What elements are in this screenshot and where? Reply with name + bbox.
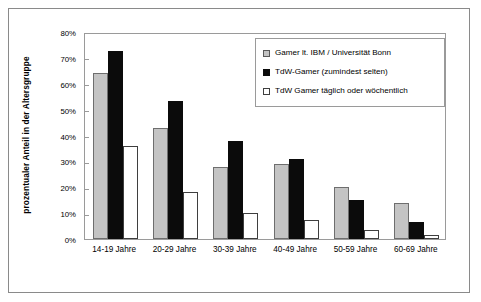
x-axis-tick-labels: 14-19 Jahre20-29 Jahre30-39 Jahre40-49 J… bbox=[84, 245, 446, 265]
y-axis-tick-label: 60% bbox=[60, 80, 76, 89]
bar-group-bars bbox=[145, 34, 205, 239]
y-axis-tick-label: 70% bbox=[60, 54, 76, 63]
y-axis-tick-label: 80% bbox=[60, 29, 76, 38]
bar[interactable] bbox=[93, 73, 108, 239]
bar[interactable] bbox=[274, 164, 289, 239]
bar[interactable] bbox=[243, 213, 258, 239]
x-axis-tick-label: 60-69 Jahre bbox=[394, 245, 438, 254]
legend-swatch-icon bbox=[263, 50, 270, 57]
x-axis-tick-label: 40-49 Jahre bbox=[273, 245, 317, 254]
y-axis-tick-label: 40% bbox=[60, 132, 76, 141]
bar[interactable] bbox=[304, 220, 319, 239]
bar[interactable] bbox=[424, 235, 439, 239]
bar[interactable] bbox=[168, 101, 183, 239]
y-axis-tick-label: 50% bbox=[60, 106, 76, 115]
y-axis-title: prozentualer Anteil in der Altersgruppe bbox=[21, 35, 31, 235]
y-axis-tick-label: 30% bbox=[60, 158, 76, 167]
bar[interactable] bbox=[394, 203, 409, 239]
x-axis-tick-label: 50-59 Jahre bbox=[334, 245, 378, 254]
bar[interactable] bbox=[183, 192, 198, 239]
bar[interactable] bbox=[123, 146, 138, 239]
legend-item-label: TdW-Gamer (zumindest selten) bbox=[275, 68, 388, 76]
x-axis-tick-label: 20-29 Jahre bbox=[153, 245, 197, 254]
bar[interactable] bbox=[334, 187, 349, 239]
bar-group-bars bbox=[85, 34, 145, 239]
legend-item-label: TdW Gamer täglich oder wöchentlich bbox=[275, 87, 408, 95]
legend-item[interactable]: TdW-Gamer (zumindest selten) bbox=[263, 64, 437, 80]
bar[interactable] bbox=[108, 51, 123, 239]
bar[interactable] bbox=[364, 230, 379, 239]
legend-swatch-icon bbox=[263, 88, 270, 95]
bar[interactable] bbox=[153, 128, 168, 239]
chart-figure: prozentualer Anteil in der Altersgruppe … bbox=[0, 0, 481, 302]
chart-legend: Gamer lt. IBM / Universität Bonn TdW-Gam… bbox=[255, 38, 445, 107]
y-axis-tick-label: 10% bbox=[60, 210, 76, 219]
y-axis-tick-label: 20% bbox=[60, 184, 76, 193]
bar[interactable] bbox=[289, 159, 304, 239]
bar[interactable] bbox=[213, 167, 228, 239]
y-axis-tick-labels: 0%10%20%30%40%50%60%70%80% bbox=[52, 33, 80, 240]
x-axis-tick-label: 30-39 Jahre bbox=[213, 245, 257, 254]
legend-item[interactable]: Gamer lt. IBM / Universität Bonn bbox=[263, 45, 437, 61]
legend-item[interactable]: TdW Gamer täglich oder wöchentlich bbox=[263, 83, 437, 99]
bar-group bbox=[85, 34, 145, 239]
x-axis-tick-label: 14-19 Jahre bbox=[92, 245, 136, 254]
bar[interactable] bbox=[409, 222, 424, 239]
bar-group bbox=[145, 34, 205, 239]
bar[interactable] bbox=[228, 141, 243, 239]
bar[interactable] bbox=[349, 200, 364, 239]
legend-swatch-icon bbox=[263, 69, 270, 76]
y-axis-tick-label: 0% bbox=[65, 236, 76, 245]
legend-item-label: Gamer lt. IBM / Universität Bonn bbox=[275, 49, 391, 57]
